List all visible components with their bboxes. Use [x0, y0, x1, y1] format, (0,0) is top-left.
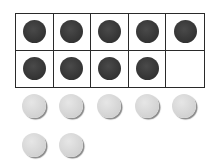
filled-counter-icon: [98, 57, 121, 80]
filled-counter-icon: [174, 20, 197, 43]
filled-counter-icon: [60, 20, 83, 43]
ten-frame-cell: [54, 51, 92, 88]
filled-counter-icon: [23, 57, 46, 80]
ten-frame-cell: [129, 51, 167, 88]
gray-counter-icon: [59, 94, 83, 118]
gray-counter-icon: [172, 94, 196, 118]
ten-frame-cell: [16, 14, 54, 51]
filled-counter-icon: [136, 57, 159, 80]
gray-counter-icon: [97, 94, 121, 118]
gray-counter-icon: [22, 94, 46, 118]
filled-counter-icon: [60, 57, 83, 80]
ten-frame-cell: [91, 51, 129, 88]
filled-counter-icon: [23, 20, 46, 43]
gray-counter-icon: [22, 133, 46, 157]
ten-frame-cell: [129, 14, 167, 51]
gray-counter-icon: [59, 133, 83, 157]
filled-counter-icon: [98, 20, 121, 43]
filled-counter-icon: [136, 20, 159, 43]
ten-frame-cell: [54, 14, 92, 51]
ten-frame-cell: [16, 51, 54, 88]
gray-counter-icon: [135, 94, 159, 118]
ten-frame-cell-empty: [166, 51, 204, 88]
ten-frame-cell: [91, 14, 129, 51]
ten-frame: [15, 13, 205, 88]
ten-frame-cell: [166, 14, 204, 51]
